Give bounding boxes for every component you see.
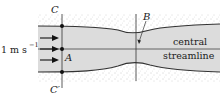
label-c-prime: C′ — [50, 84, 61, 95]
point-a-dot — [60, 47, 64, 51]
central-label: central — [173, 36, 207, 47]
label-b: B — [142, 11, 150, 22]
point-c-prime — [60, 70, 64, 74]
streamline-label: streamline — [163, 50, 215, 61]
point-c — [60, 24, 64, 28]
label-c: C — [51, 4, 59, 15]
velocity-exponent: −1 — [29, 41, 39, 49]
velocity-label: 1 m s — [1, 44, 27, 55]
label-a: A — [64, 52, 72, 63]
flow-diagram: C C′ A B 1 m s −1 central streamline — [0, 0, 220, 95]
